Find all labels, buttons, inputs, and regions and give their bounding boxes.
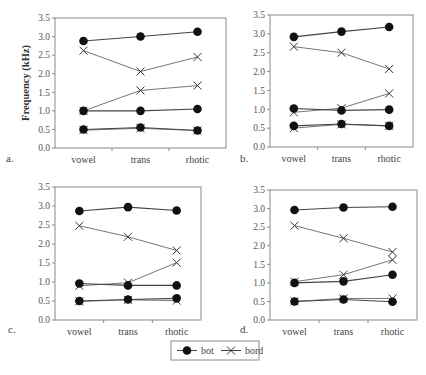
bot-circle-marker bbox=[75, 207, 84, 216]
bord-x-marker bbox=[389, 248, 397, 256]
x-category-label: rhotic bbox=[381, 326, 405, 337]
y-tick-label: 1.5 bbox=[38, 258, 50, 268]
series-bord-f3 bbox=[291, 222, 397, 256]
bot-circle-marker bbox=[385, 122, 394, 131]
x-category-label: vowel bbox=[71, 154, 96, 165]
series-bord-f3 bbox=[290, 43, 393, 73]
bord-x-marker bbox=[75, 222, 83, 230]
x-category-label: trans bbox=[131, 154, 151, 165]
y-tick-label: 1.0 bbox=[253, 105, 265, 115]
bot-circle-marker bbox=[388, 298, 397, 307]
bord-x-marker bbox=[340, 234, 348, 242]
y-tick-label: 1.0 bbox=[38, 106, 50, 116]
chart-canvas: 0.00.51.01.52.02.53.03.5voweltransrhotic… bbox=[0, 0, 426, 375]
series-bot-f3 bbox=[290, 202, 397, 214]
x-category-label: trans bbox=[332, 153, 352, 164]
bot-circle-marker bbox=[136, 32, 145, 41]
y-tick-label: 3.0 bbox=[253, 204, 265, 214]
series-bot-f1 bbox=[79, 123, 202, 135]
chart-panel-c: 0.00.51.01.52.02.53.03.5voweltransrhotic… bbox=[8, 182, 201, 337]
series-bot-f2 bbox=[290, 104, 394, 114]
bord-x-marker bbox=[385, 89, 393, 97]
bot-circle-marker bbox=[339, 277, 348, 286]
bot-circle-marker bbox=[79, 125, 88, 134]
legend: botbord bbox=[171, 341, 263, 360]
y-tick-label: 2.5 bbox=[38, 220, 50, 230]
y-tick-label: 3.0 bbox=[253, 29, 265, 39]
bot-circle-marker bbox=[385, 23, 394, 32]
panel-letter: c. bbox=[8, 323, 16, 335]
bot-circle-marker bbox=[75, 279, 84, 288]
series-bot-f3 bbox=[79, 27, 202, 45]
y-tick-label: 0.5 bbox=[253, 123, 265, 133]
bot-circle-marker bbox=[290, 104, 299, 113]
bot-circle-marker bbox=[79, 37, 88, 46]
y-tick-label: 1.5 bbox=[253, 86, 265, 96]
bot-circle-marker bbox=[124, 281, 133, 290]
y-tick-label: 3.5 bbox=[38, 182, 50, 192]
bot-circle-marker bbox=[388, 202, 397, 211]
x-category-label: rhotic bbox=[165, 326, 189, 337]
y-tick-label: 0.0 bbox=[38, 143, 50, 153]
chart-panel-b: 0.00.51.01.52.02.53.03.5voweltransrhotic… bbox=[240, 10, 413, 164]
x-category-label: trans bbox=[118, 326, 138, 337]
bot-circle-marker bbox=[172, 206, 181, 215]
y-tick-label: 0.0 bbox=[38, 315, 50, 325]
series-bot-f2 bbox=[290, 270, 397, 287]
bot-circle-marker bbox=[337, 120, 346, 129]
y-tick-label: 2.5 bbox=[38, 50, 50, 60]
bot-circle-marker bbox=[385, 105, 394, 114]
bot-circle-marker bbox=[337, 106, 346, 115]
y-tick-label: 2.5 bbox=[253, 48, 265, 58]
bord-x-marker bbox=[385, 65, 393, 73]
bot-circle-marker bbox=[136, 123, 145, 132]
legend-bot-circle-marker bbox=[183, 346, 192, 355]
series-bord-f3 bbox=[75, 222, 180, 255]
series-bot-f3 bbox=[290, 23, 394, 41]
chart-panel-d: 0.00.51.01.52.02.53.03.5voweltransrhotic… bbox=[240, 185, 417, 337]
x-category-label: trans bbox=[334, 326, 354, 337]
bot-circle-marker bbox=[339, 203, 348, 212]
y-tick-label: 3.5 bbox=[253, 185, 265, 195]
y-tick-label: 0.0 bbox=[253, 142, 265, 152]
series-bot-f1 bbox=[290, 120, 394, 130]
y-tick-label: 2.0 bbox=[253, 241, 265, 251]
y-tick-label: 1.5 bbox=[253, 260, 265, 270]
bot-circle-marker bbox=[193, 105, 202, 114]
bot-circle-marker bbox=[388, 270, 397, 279]
y-tick-label: 2.5 bbox=[253, 222, 265, 232]
bord-x-marker bbox=[124, 233, 132, 241]
y-tick-label: 1.0 bbox=[38, 277, 50, 287]
bord-x-marker bbox=[389, 256, 397, 264]
series-bot-f1 bbox=[75, 294, 181, 305]
panel-letter: d. bbox=[240, 323, 249, 335]
x-category-label: vowel bbox=[67, 326, 92, 337]
bord-x-marker bbox=[194, 53, 202, 61]
bot-circle-marker bbox=[172, 294, 181, 303]
bot-circle-marker bbox=[79, 107, 88, 116]
y-axis-label: Frequency (kHz) bbox=[20, 45, 32, 121]
x-category-label: vowel bbox=[282, 153, 307, 164]
x-category-label: vowel bbox=[282, 326, 307, 337]
y-tick-label: 2.0 bbox=[253, 67, 265, 77]
bot-circle-marker bbox=[290, 206, 299, 215]
bord-x-marker bbox=[173, 246, 181, 254]
bot-circle-marker bbox=[290, 33, 299, 42]
bot-circle-marker bbox=[339, 295, 348, 304]
chart-panel-a: 0.00.51.01.52.02.53.03.5voweltransrhotic… bbox=[6, 13, 226, 165]
y-tick-label: 3.0 bbox=[38, 201, 50, 211]
panel-letter: b. bbox=[240, 152, 249, 164]
bot-circle-marker bbox=[124, 203, 133, 212]
panel-letter: a. bbox=[6, 152, 14, 164]
y-tick-label: 0.0 bbox=[253, 315, 265, 325]
legend-label: bot bbox=[201, 345, 214, 356]
series-bot-f3 bbox=[75, 203, 181, 215]
bot-circle-marker bbox=[172, 281, 181, 290]
x-category-label: rhotic bbox=[378, 153, 402, 164]
y-tick-label: 3.5 bbox=[253, 10, 265, 20]
bord-x-marker bbox=[137, 67, 145, 75]
x-category-label: rhotic bbox=[186, 154, 210, 165]
y-tick-label: 2.0 bbox=[38, 239, 50, 249]
legend-label: bord bbox=[245, 345, 263, 356]
y-tick-label: 0.5 bbox=[38, 296, 50, 306]
